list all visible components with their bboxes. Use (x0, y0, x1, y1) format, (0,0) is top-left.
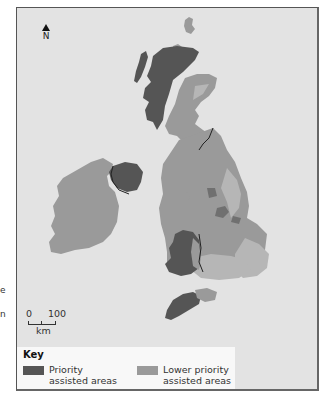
scale-unit: km (36, 325, 51, 336)
shetland-islands (184, 17, 195, 34)
scale-start: 0 (26, 308, 32, 319)
northern-ireland-priority-area (109, 162, 143, 192)
north-arrow: N (39, 24, 53, 41)
legend-label-priority: Priority assisted areas (49, 364, 119, 386)
legend-swatch-lower-priority (137, 366, 158, 375)
legend-title: Key (23, 349, 44, 360)
map-legend: Key Priority assisted areas Lower priori… (17, 347, 235, 391)
outer-hebrides (134, 51, 148, 83)
cropped-text-fragment: n (0, 309, 6, 319)
legend-item-priority: Priority assisted areas (23, 364, 119, 386)
map-frame: N 0 100 km Key Priority assisted areas L… (16, 7, 319, 391)
north-arrow-icon (42, 24, 50, 31)
cropped-text-fragment: e (0, 285, 6, 295)
scale-bar: 0 100 km (22, 308, 72, 338)
legend-swatch-priority (23, 366, 44, 375)
scale-end: 100 (48, 308, 66, 319)
legend-label-lower-priority: Lower priority assisted areas (163, 364, 243, 386)
legend-item-lower-priority: Lower priority assisted areas (137, 364, 243, 386)
north-label: N (39, 31, 53, 41)
republic-of-ireland (49, 158, 119, 254)
scale-bar-tick (41, 321, 42, 324)
cornwall-priority-area (165, 292, 201, 320)
